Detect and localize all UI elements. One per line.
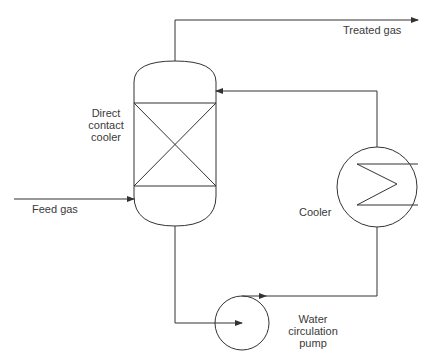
column-top-head xyxy=(134,61,216,82)
treated-gas-label: Treated gas xyxy=(343,24,401,36)
direct-contact-cooler-column xyxy=(134,61,216,226)
pump-label-line-2: circulation xyxy=(282,325,344,337)
dcc-label-line-1: Direct xyxy=(84,107,128,119)
pump-label-line-1: Water xyxy=(282,313,344,325)
cooler-symbol xyxy=(337,147,418,296)
column-bottom-head xyxy=(134,196,216,226)
dcc-label-line-2: contact xyxy=(84,119,128,131)
dcc-label-line-3: cooler xyxy=(84,131,128,143)
cooled-water-return-stream xyxy=(216,91,377,147)
cooler-coil xyxy=(357,164,418,205)
water-circulation-pump-label: Water circulation pump xyxy=(282,313,344,349)
cooler-label: Cooler xyxy=(299,206,331,218)
water-to-pump-stream xyxy=(175,226,242,323)
pump-label-line-3: pump xyxy=(282,337,344,349)
cooler-shell xyxy=(337,147,417,227)
feed-gas-label: Feed gas xyxy=(32,203,78,215)
direct-contact-cooler-label: Direct contact cooler xyxy=(84,107,128,143)
process-flow-diagram xyxy=(0,0,432,361)
